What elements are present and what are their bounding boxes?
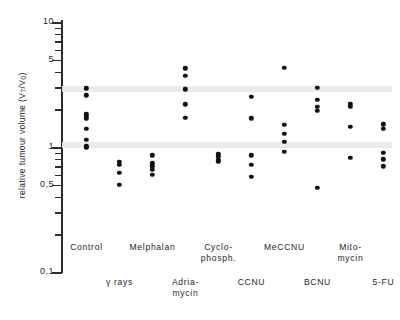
y-axis-tick-label: 0,1	[24, 266, 54, 276]
data-point	[249, 163, 253, 167]
data-point	[315, 186, 319, 190]
y-axis-minor-tick	[55, 197, 62, 198]
data-point	[84, 117, 88, 121]
category-label-ccnu: CCNU	[238, 277, 266, 288]
category-label-cyclo-phosph: Cyclo-phosph.	[201, 242, 236, 264]
data-point	[183, 102, 187, 106]
data-point	[117, 171, 121, 175]
data-point	[282, 66, 286, 70]
category-label-line: Mito-	[337, 242, 363, 253]
data-point	[84, 93, 88, 97]
data-point	[117, 163, 121, 167]
category-label-melphalan: Melphalan	[129, 242, 175, 253]
y-axis-tick-label: 0,5	[24, 179, 54, 189]
y-axis-title: relative tumour volume (V7/V0)	[17, 35, 28, 235]
category-label-line: MeCCNU	[264, 242, 305, 253]
category-label-adria-mycin: Adria-mycin	[172, 277, 199, 299]
data-point	[84, 127, 88, 131]
lower-control-band	[62, 142, 392, 147]
y-axis-minor-tick	[55, 34, 62, 35]
data-point	[249, 174, 253, 178]
category-label-line: Control	[70, 242, 103, 253]
category-label-mito-mycin: Mito-mycin	[337, 242, 363, 264]
data-point	[348, 125, 352, 129]
data-point	[381, 151, 385, 155]
y-axis-minor-tick	[55, 159, 62, 160]
category-label-line: Adria-	[172, 277, 199, 288]
data-point	[150, 153, 154, 157]
category-label-line: Cyclo-	[201, 242, 236, 253]
y-axis-minor-tick	[55, 153, 62, 154]
y-axis-tick-label: 1	[24, 141, 54, 151]
data-point	[150, 167, 154, 171]
category-label-line: mycin	[337, 253, 363, 264]
category-label-rays: γ rays	[106, 277, 133, 288]
category-label-bcnu: BCNU	[304, 277, 331, 288]
category-label-line: phosph.	[201, 253, 236, 264]
data-point	[381, 127, 385, 131]
y-axis-minor-tick	[55, 28, 62, 29]
data-point	[381, 164, 385, 168]
y-axis-tick-label: 5	[24, 54, 54, 64]
category-label-line: CCNU	[238, 277, 266, 288]
category-label-5-fu: 5-FU	[373, 277, 395, 288]
data-point	[183, 115, 187, 119]
y-axis-minor-tick	[55, 41, 62, 42]
upper-control-band	[62, 86, 392, 92]
data-point	[117, 182, 121, 186]
data-point	[381, 157, 385, 161]
y-axis-minor-tick	[55, 175, 62, 176]
data-point	[249, 153, 253, 157]
y-axis-minor-tick	[55, 166, 62, 167]
category-label-line: BCNU	[304, 277, 331, 288]
data-point	[348, 156, 352, 160]
data-point	[315, 109, 319, 113]
y-axis-minor-tick	[55, 234, 62, 235]
y-axis-minor-tick	[55, 87, 62, 88]
data-point	[84, 146, 88, 150]
data-point	[249, 95, 253, 99]
y-axis-minor-tick	[55, 72, 62, 73]
plot-area: 10510,50,1	[62, 22, 392, 272]
category-label-line: Melphalan	[129, 242, 175, 253]
data-point	[348, 104, 352, 108]
data-point	[282, 131, 286, 135]
y-axis-minor-tick	[55, 109, 62, 110]
data-point	[183, 73, 187, 77]
category-label-line: 5-FU	[373, 277, 395, 288]
data-point	[282, 149, 286, 153]
category-label-control: Control	[70, 242, 103, 253]
scatter-chart-figure: relative tumour volume (V7/V0) 10510,50,…	[0, 0, 400, 320]
category-label-line: mycin	[172, 288, 199, 299]
data-point	[315, 98, 319, 102]
data-point	[216, 159, 220, 163]
data-point	[183, 66, 187, 70]
y-axis-minor-tick	[55, 212, 62, 213]
y-axis-minor-tick	[55, 50, 62, 51]
data-point	[282, 123, 286, 127]
data-point	[150, 173, 154, 177]
category-label-line: γ rays	[106, 277, 133, 288]
y-axis-tick-label: 10	[24, 16, 54, 26]
data-point	[249, 116, 253, 120]
category-label-meccnu: MeCCNU	[264, 242, 305, 253]
